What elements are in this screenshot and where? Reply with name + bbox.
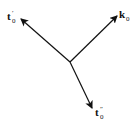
svg-text:t: t <box>7 10 11 22</box>
label-k0: k 0 <box>119 8 130 23</box>
arrow-t0-double-prime <box>70 62 92 108</box>
svg-text:″: ″ <box>100 105 103 113</box>
svg-text:t: t <box>95 106 99 118</box>
svg-text:0: 0 <box>12 17 16 25</box>
svg-text:′: ′ <box>12 9 14 17</box>
svg-text:k: k <box>119 8 126 20</box>
label-t0-prime: t ′ 0 <box>7 9 16 25</box>
vector-diagram: t ′ 0 k 0 t ″ 0 <box>0 0 138 122</box>
svg-text:0: 0 <box>100 113 104 121</box>
arrow-t0-prime <box>21 19 70 62</box>
svg-text:0: 0 <box>126 15 130 23</box>
label-t0-double-prime: t ″ 0 <box>95 105 104 121</box>
arrow-k0 <box>70 16 117 62</box>
